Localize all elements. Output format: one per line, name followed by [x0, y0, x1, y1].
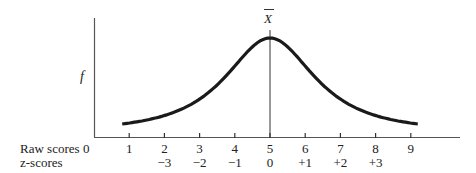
z-score-tick: +2 — [333, 156, 347, 170]
mean-label: X — [264, 12, 272, 26]
raw-score-tick: 2 — [161, 142, 168, 156]
z-score-tick: +3 — [369, 156, 383, 170]
raw-score-tick: 4 — [232, 142, 239, 156]
raw-score-tick: 7 — [337, 142, 344, 156]
raw-score-tick: 6 — [302, 142, 309, 156]
z-score-tick: −2 — [193, 156, 207, 170]
z-scores-label: z-scores — [20, 156, 63, 170]
z-score-tick: −1 — [228, 156, 242, 170]
raw-score-tick: 5 — [267, 142, 274, 156]
raw-score-tick: 3 — [196, 142, 203, 156]
raw-origin-label: 0 — [83, 142, 90, 156]
z-score-tick: +1 — [298, 156, 312, 170]
z-score-tick: 0 — [267, 156, 274, 170]
raw-score-tick: 9 — [408, 142, 415, 156]
raw-score-tick: 8 — [372, 142, 379, 156]
y-axis-label: f — [80, 70, 84, 84]
raw-scores-label: Raw scores — [20, 142, 80, 156]
z-score-tick: −3 — [157, 156, 171, 170]
raw-score-tick: 1 — [126, 142, 133, 156]
